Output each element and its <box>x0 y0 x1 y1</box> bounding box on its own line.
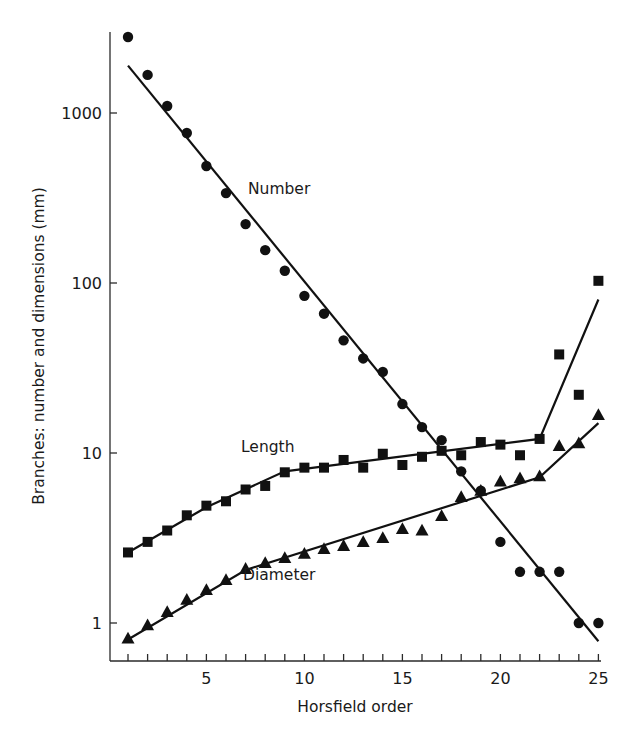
y-tick-label: 1 <box>92 614 102 633</box>
length-point <box>417 452 427 462</box>
number-point <box>240 219 250 229</box>
diameter-point <box>533 469 546 481</box>
diameter-series-label: Diameter <box>243 566 316 584</box>
y-tick-label: 100 <box>71 274 102 293</box>
x-tick-label: 5 <box>201 669 211 688</box>
length-point <box>574 390 584 400</box>
diameter-point <box>357 535 370 547</box>
series-labels: NumberLengthDiameter <box>241 180 316 584</box>
length-fit-line <box>128 300 598 553</box>
diameter-point <box>376 531 389 543</box>
number-point <box>358 353 368 363</box>
length-point <box>143 537 153 547</box>
number-point <box>397 399 407 409</box>
diameter-point <box>592 408 605 420</box>
number-point <box>554 567 564 577</box>
number-point <box>515 567 525 577</box>
length-point <box>241 484 251 494</box>
length-point <box>476 437 486 447</box>
number-point <box>221 188 231 198</box>
length-point <box>299 463 309 473</box>
number-point <box>182 128 192 138</box>
length-markers <box>123 276 603 558</box>
length-series-label: Length <box>241 438 294 456</box>
length-point <box>339 455 349 465</box>
number-series-label: Number <box>248 180 311 198</box>
diameter-fit-line <box>128 423 598 639</box>
x-tick-label: 10 <box>294 669 314 688</box>
number-point <box>456 466 466 476</box>
diameter-point <box>553 439 566 451</box>
number-point <box>142 70 152 80</box>
data-markers <box>122 32 605 644</box>
length-point <box>358 463 368 473</box>
number-point <box>495 537 505 547</box>
number-point <box>338 335 348 345</box>
diameter-point <box>494 475 507 487</box>
number-point <box>260 245 270 255</box>
diameter-point <box>180 593 193 605</box>
number-point <box>280 266 290 276</box>
length-point <box>456 450 466 460</box>
y-tick-label: 1000 <box>61 104 102 123</box>
axes <box>110 32 601 661</box>
x-axis-title: Horsfield order <box>297 698 413 716</box>
length-point <box>535 434 545 444</box>
diameter-point <box>396 522 409 534</box>
number-point <box>299 291 309 301</box>
length-point <box>397 460 407 470</box>
diameter-markers <box>122 408 605 643</box>
length-point <box>201 501 211 511</box>
y-axis-title: Branches: number and dimensions (mm) <box>30 187 48 505</box>
number-point <box>162 101 172 111</box>
length-point <box>260 481 270 491</box>
x-axis-ticks: 510152025 <box>128 654 609 688</box>
number-point <box>378 367 388 377</box>
length-point <box>515 450 525 460</box>
diameter-point <box>514 471 527 483</box>
x-tick-label: 25 <box>588 669 608 688</box>
length-point <box>495 440 505 450</box>
number-point <box>319 308 329 318</box>
length-point <box>280 467 290 477</box>
x-tick-label: 15 <box>392 669 412 688</box>
number-point <box>123 32 133 42</box>
length-point <box>221 496 231 506</box>
diameter-point <box>435 509 448 521</box>
length-point <box>162 526 172 536</box>
diameter-point <box>161 605 174 617</box>
number-point <box>574 618 584 628</box>
number-point <box>201 161 211 171</box>
number-point <box>436 435 446 445</box>
diameter-point <box>416 524 429 536</box>
x-tick-label: 20 <box>490 669 510 688</box>
number-point <box>593 618 603 628</box>
length-point <box>437 446 447 456</box>
length-point <box>182 510 192 520</box>
number-point <box>417 422 427 432</box>
diameter-point <box>455 490 468 502</box>
number-point <box>534 567 544 577</box>
y-axis-ticks: 1101001000 <box>61 104 117 633</box>
horsfield-order-log-chart: 510152025 1101001000 NumberLengthDiamete… <box>0 0 637 736</box>
length-point <box>378 449 388 459</box>
y-tick-label: 10 <box>82 444 102 463</box>
length-point <box>554 349 564 359</box>
length-point <box>319 463 329 473</box>
length-point <box>593 276 603 286</box>
length-point <box>123 547 133 557</box>
